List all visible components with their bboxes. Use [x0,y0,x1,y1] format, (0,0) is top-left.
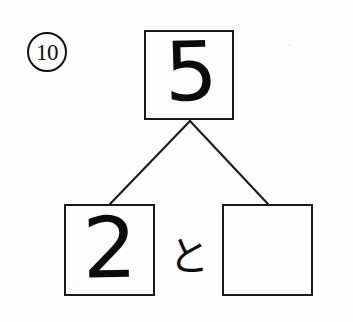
question-number-label: 10 [36,40,58,63]
whole-box[interactable]: 5 [144,30,234,120]
whole-box-value: 5 [163,30,218,113]
part-box-right[interactable] [222,204,313,296]
question-number-badge: 10 [27,32,67,72]
branch-right-line [190,121,268,204]
conjunction-label: と [169,236,209,276]
part-box-left-value: 2 [82,206,138,291]
conjunction-character: と [163,228,215,284]
part-box-left[interactable]: 2 [64,204,155,296]
branch-left-line [110,121,190,204]
worksheet-page: 10 5 2 と [0,0,353,322]
